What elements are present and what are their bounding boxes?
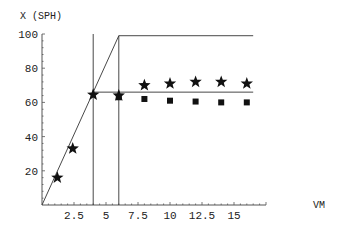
x-tick-label: 5 [103, 210, 110, 222]
square-marker-icon [244, 99, 250, 105]
y-tick-label: 60 [25, 97, 38, 109]
y-tick-label: 40 [25, 132, 38, 144]
chart: 2.557.51012.51520406080100 X (SPH) VM [0, 0, 344, 228]
x-axis-title: VM [313, 200, 325, 211]
upper-bound-line [42, 36, 253, 205]
x-tick-label: 15 [227, 210, 240, 222]
square-marker-icon [116, 94, 122, 100]
y-tick-label: 80 [25, 63, 38, 75]
y-tick-label: 20 [25, 166, 38, 178]
square-marker-icon [167, 98, 173, 104]
y-tick-label: 100 [18, 29, 38, 41]
square-marker-icon [218, 99, 224, 105]
star-icon [138, 79, 150, 91]
data-markers [51, 75, 253, 183]
x-tick-label: 10 [163, 210, 176, 222]
x-tick-label: 2.5 [64, 210, 84, 222]
y-axis-title: X (SPH) [20, 11, 62, 22]
square-marker-icon [193, 99, 199, 105]
square-marker-icon [141, 96, 147, 102]
star-icon [215, 75, 227, 87]
star-icon [241, 77, 253, 89]
axis-labels: X (SPH) VM [20, 11, 325, 211]
x-tick-label: 7.5 [128, 210, 148, 222]
x-tick-label: 12.5 [189, 210, 215, 222]
star-icon [164, 77, 176, 89]
axes: 2.557.51012.51520406080100 [18, 29, 266, 222]
star-icon [189, 75, 201, 87]
reference-lines [42, 34, 253, 205]
star-icon [67, 142, 79, 154]
